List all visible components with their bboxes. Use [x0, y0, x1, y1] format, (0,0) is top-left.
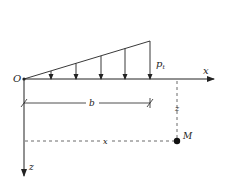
load-peak-label: pt — [156, 58, 165, 70]
diagram-canvas: O x z pt b z x M — [0, 0, 225, 186]
horizontal-dist-label: x — [103, 137, 108, 146]
origin-label: O — [13, 73, 21, 84]
x-axis-label: x — [203, 65, 209, 76]
width-dimension — [21, 98, 153, 108]
triangular-load — [24, 41, 150, 79]
point-m — [174, 138, 180, 144]
z-axis-label: z — [28, 162, 34, 172]
point-m-label: M — [182, 131, 193, 141]
width-label: b — [89, 98, 95, 108]
depth-label: z — [174, 104, 180, 113]
